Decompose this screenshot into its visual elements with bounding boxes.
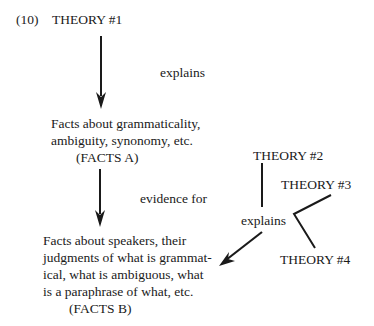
edge-label-explains-1: explains <box>160 64 205 81</box>
arrow-theory1-to-facts-a <box>96 36 106 109</box>
arrow-explains-to-facts-b <box>219 232 262 266</box>
facts-a-label: (FACTS A) <box>51 149 200 166</box>
theory-1-label: THEORY #1 <box>52 11 122 28</box>
facts-b-line: is a paraphrase of what, etc. <box>43 283 212 300</box>
facts-a-node: Facts about grammaticality, ambiguity, s… <box>51 115 200 166</box>
theory-2-label: THEORY #2 <box>253 147 323 164</box>
facts-a-line: Facts about grammaticality, <box>51 115 200 132</box>
arrow-facts-a-to-facts-b <box>95 169 105 227</box>
facts-a-line: ambiguity, synonomy, etc. <box>51 132 200 149</box>
facts-b-line: judgments of what is grammat- <box>43 249 212 266</box>
theory-4-label: THEORY #4 <box>280 251 350 268</box>
example-number: (10) <box>16 11 39 28</box>
edge-label-explains-2: explains <box>241 212 286 229</box>
facts-b-label: (FACTS B) <box>43 300 212 317</box>
edge-label-evidence-for: evidence for <box>140 190 207 207</box>
facts-b-node: Facts about speakers, their judgments of… <box>43 232 212 317</box>
facts-b-line: Facts about speakers, their <box>43 232 212 249</box>
bracket-theory3-theory4 <box>294 195 331 248</box>
facts-b-line: ical, what is ambiguous, what <box>43 266 212 283</box>
theory-3-label: THEORY #3 <box>281 176 351 193</box>
